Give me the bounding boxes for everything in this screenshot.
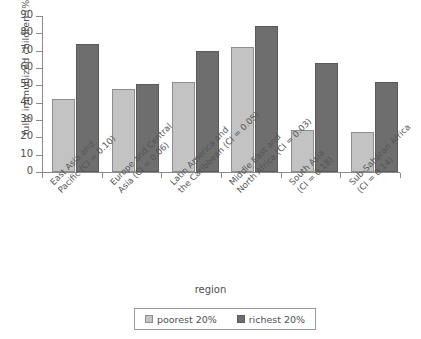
y-axis-tick-label: 60	[20, 61, 33, 72]
x-axis-tick	[42, 173, 43, 178]
bar-richest	[196, 51, 219, 172]
x-axis-tick	[102, 173, 103, 178]
bar-poorest	[231, 47, 254, 172]
chart-legend: poorest 20% richest 20%	[134, 308, 316, 330]
legend-item-poorest: poorest 20%	[145, 314, 217, 325]
y-axis-tick: 60	[36, 68, 42, 69]
plot-area: 0102030405060708090	[42, 16, 400, 173]
y-axis-tick: 20	[36, 137, 42, 138]
y-axis-tick: 90	[36, 16, 42, 17]
legend-label-richest: richest 20%	[249, 314, 305, 325]
x-axis-tick	[340, 173, 341, 178]
y-axis-tick-label: 50	[20, 78, 33, 89]
bar-group	[52, 16, 99, 172]
y-axis-tick-label: 40	[20, 96, 33, 107]
bar-richest	[76, 44, 99, 172]
x-axis-tick	[281, 173, 282, 178]
y-axis-tick-label: 0	[27, 165, 33, 176]
bar-poorest	[52, 99, 75, 172]
y-axis-tick-label: 80	[20, 26, 33, 37]
richest-swatch-icon	[237, 315, 245, 323]
y-axis-tick: 40	[36, 103, 42, 104]
x-axis-tick	[161, 173, 162, 178]
bar-group	[172, 16, 219, 172]
y-axis-line	[42, 16, 43, 173]
bar-richest	[375, 82, 398, 172]
y-axis-tick-label: 70	[20, 44, 33, 55]
legend-label-poorest: poorest 20%	[157, 314, 217, 325]
y-axis-tick-label: 90	[20, 9, 33, 20]
bar-richest	[255, 26, 278, 172]
y-axis-tick-label: 30	[20, 113, 33, 124]
bar-richest	[315, 63, 338, 172]
y-axis-tick: 80	[36, 33, 42, 34]
y-axis-tick: 10	[36, 155, 42, 156]
poorest-swatch-icon	[145, 315, 153, 323]
bar-group	[351, 16, 398, 172]
y-axis-tick: 50	[36, 85, 42, 86]
y-axis-tick: 30	[36, 120, 42, 121]
y-axis-tick-label: 20	[20, 130, 33, 141]
y-axis-tick: 70	[36, 51, 42, 52]
bar-poorest	[351, 132, 374, 172]
bar-chart: fully immunized children (%) 01020304050…	[0, 0, 421, 339]
y-axis-tick-label: 10	[20, 148, 33, 159]
bar-poorest	[172, 82, 195, 172]
bar-group	[231, 16, 278, 172]
bar-group	[112, 16, 159, 172]
y-axis-title: fully immunized children (%)	[20, 0, 31, 151]
legend-item-richest: richest 20%	[237, 314, 305, 325]
bar-poorest	[291, 130, 314, 172]
bar-richest	[136, 84, 159, 172]
bar-group	[291, 16, 338, 172]
bar-poorest	[112, 89, 135, 172]
x-axis-tick	[221, 173, 222, 178]
x-axis-title: region	[0, 284, 421, 295]
x-axis-tick	[400, 173, 401, 178]
